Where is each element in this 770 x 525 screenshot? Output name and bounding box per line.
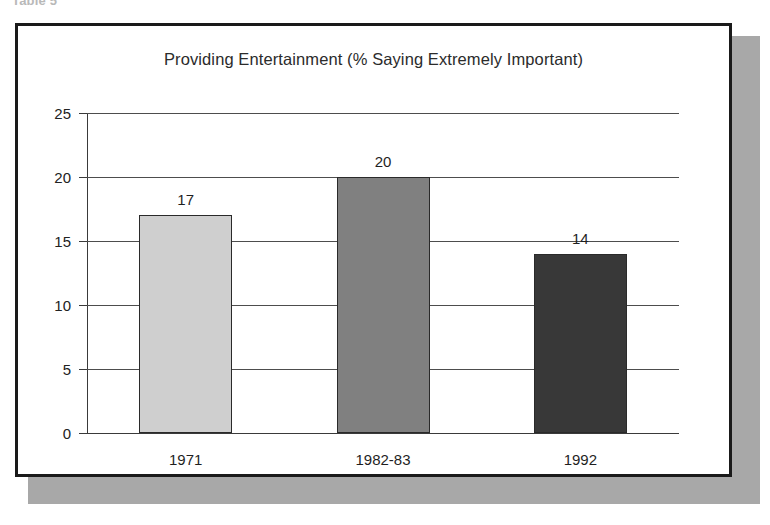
y-axis-label: 20 bbox=[54, 169, 71, 186]
bar-1971 bbox=[139, 215, 232, 433]
y-axis-label: 25 bbox=[54, 105, 71, 122]
y-tick-20 bbox=[79, 177, 87, 178]
gridline-0 bbox=[87, 433, 679, 434]
y-tick-25 bbox=[79, 113, 87, 114]
y-axis-label: 0 bbox=[63, 425, 71, 442]
y-tick-0 bbox=[79, 433, 87, 434]
bar-value-label: 20 bbox=[375, 153, 392, 170]
plot-area: 0510152025171971201982-83141992 bbox=[87, 113, 679, 433]
y-tick-15 bbox=[79, 241, 87, 242]
bar-1982-83 bbox=[337, 177, 430, 433]
y-axis-label: 15 bbox=[54, 233, 71, 250]
y-axis-line bbox=[87, 113, 88, 433]
table-caption: Table 5 bbox=[12, 0, 57, 8]
x-axis-label-1992: 1992 bbox=[564, 451, 597, 468]
y-axis-label: 5 bbox=[63, 361, 71, 378]
bar-value-label: 17 bbox=[177, 191, 194, 208]
bar-value-label: 14 bbox=[572, 230, 589, 247]
bar-1992 bbox=[534, 254, 627, 433]
y-tick-5 bbox=[79, 369, 87, 370]
chart-figure-frame: Providing Entertainment (% Saying Extrem… bbox=[15, 23, 732, 477]
x-axis-label-1982-83: 1982-83 bbox=[355, 451, 410, 468]
x-axis-label-1971: 1971 bbox=[169, 451, 202, 468]
y-tick-10 bbox=[79, 305, 87, 306]
gridline-25 bbox=[87, 113, 679, 114]
y-axis-label: 10 bbox=[54, 297, 71, 314]
chart-title: Providing Entertainment (% Saying Extrem… bbox=[18, 50, 729, 69]
